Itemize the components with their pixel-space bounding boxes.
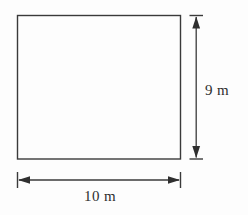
height-dimension-arrow-down-icon [192, 146, 200, 158]
width-dimension-label: 10 m [74, 189, 126, 204]
width-dimension-arrow-right-icon [168, 176, 180, 184]
height-dimension-label: 9 m [205, 83, 229, 98]
width-dimension-arrow-left-icon [18, 176, 30, 184]
width-dimension-group [18, 172, 181, 188]
rectangle-diagram-svg [0, 0, 248, 215]
geometry-figure-canvas: 9 m 10 m [0, 0, 248, 215]
height-dimension-group [190, 16, 204, 160]
rectangle-shape [18, 16, 181, 160]
height-dimension-arrow-up-icon [192, 17, 200, 29]
